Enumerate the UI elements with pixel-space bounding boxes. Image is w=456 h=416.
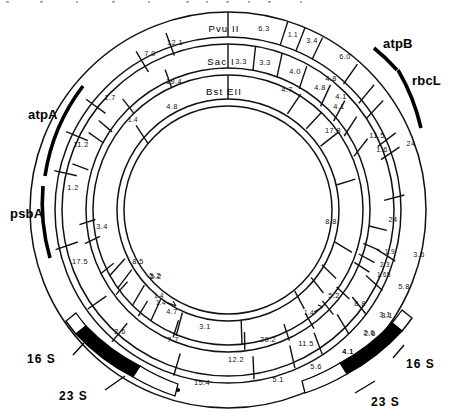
outer-fragment-label: 24 — [406, 139, 415, 148]
circular-restriction-map: Pvu II Sac I Bst EII 6.3 1.1 3.4 6.0 4.8… — [0, 0, 456, 416]
outer-fragment-label: 1.2 — [67, 183, 78, 192]
23S-left-leader — [105, 376, 125, 390]
inner-fragment-label: 1.4 — [154, 292, 164, 299]
inner-fragment-label: 8.8 — [325, 217, 336, 226]
middle-fragment-label: 1.4 — [156, 299, 166, 306]
middle-fragment-label: 4.0 — [289, 67, 300, 76]
inner-fragment-label: 1.4 — [304, 309, 314, 316]
inner-fragment-label: 4.7 — [166, 307, 177, 316]
middle-fragment-label: 3.4 — [96, 222, 107, 231]
psbA-arc-marker — [42, 186, 50, 258]
rrna-operon-left — [66, 313, 180, 396]
middle-fragment-label: 4.8 — [314, 83, 325, 92]
16S-left-label: 16 S — [27, 352, 56, 366]
outer-ring-enzyme-label: Pvu II — [208, 23, 239, 34]
middle-fragment-label: 8.5 — [132, 257, 143, 266]
outer-fragment-label: 11.5 — [369, 131, 384, 140]
rrna-operon-right — [302, 310, 412, 393]
outer-fragment-label: 4.1 — [335, 92, 346, 101]
atpB-label: atpB — [383, 36, 413, 51]
outer-fragment-label: 6.0 — [339, 52, 350, 61]
inner-fragment-label: 4.8 — [166, 102, 177, 111]
16S-right-label: 16 S — [406, 357, 435, 371]
outer-fragment-label: 3.6 — [413, 250, 424, 259]
23S-right-label: 23 S — [371, 395, 400, 409]
23S-left-label: 23 S — [59, 389, 88, 403]
outer-fragment-label: 11.2 — [73, 140, 88, 149]
middle-fragment-label: 2.6 — [114, 327, 125, 336]
middle-fragment-label: 19.4 — [166, 77, 182, 86]
outer-fragment-label: 17.5 — [72, 257, 88, 266]
inner-fragment-label: 20.2 — [260, 335, 276, 344]
middle-fragment-label: 1.4 — [128, 116, 138, 123]
middle-fragment-label: 17.8 — [325, 126, 341, 135]
middle-fragment-label: 2.6 — [363, 328, 374, 337]
middle-fragment-label: 3.1 — [379, 310, 390, 319]
inner-fragment-label: 4.7 — [281, 85, 292, 94]
inner-fragment-label: 5.2 — [149, 271, 160, 280]
outer-fragment-label: 1.7 — [104, 93, 115, 102]
middle-fragment-label: 1.9 — [385, 248, 395, 255]
inner-ring-ticks — [109, 75, 355, 345]
outer-fragment-label: 1.6 — [376, 145, 387, 154]
outer-fragment-label: 5.6 — [310, 362, 321, 371]
atpA-label: atpA — [28, 107, 58, 122]
inner-fragment-label: 5.2 — [328, 291, 339, 300]
outer-fragment-label: 6.3 — [258, 24, 269, 33]
middle-fragment-label: 1.65 — [377, 271, 391, 278]
16S-left-leader — [73, 343, 84, 355]
middle-ring-labels: 3.3 3.3 4.0 4.8 4.1 17.8 24 1.9 2.3 1.65… — [96, 57, 397, 364]
outer-fragment-label: 4.8 — [325, 74, 336, 83]
outer-fragment-label: 5.1 — [272, 375, 283, 384]
middle-fragment-label: 3.3 — [259, 58, 270, 67]
rbcL-label: rbcL — [412, 73, 441, 88]
outer-fragment-label: 1.1 — [288, 31, 298, 38]
atpB-arc-marker — [374, 48, 397, 70]
middle-fragment-label: 12.2 — [228, 355, 244, 364]
middle-fragment-label: 2.3 — [380, 261, 390, 268]
outer-fragment-label: 5.8 — [398, 282, 409, 291]
outer-fragment-label: 7.0 — [144, 49, 155, 58]
psbA-label: psbA — [10, 206, 44, 221]
figure-canvas: Pvu II Sac I Bst EII 6.3 1.1 3.4 6.0 4.8… — [0, 0, 456, 416]
outer-fragment-label: 3.4 — [306, 36, 317, 45]
middle-fragment-label: 8.8 — [354, 299, 365, 308]
16S-right-leader — [393, 345, 404, 358]
middle-fragment-label: 3.3 — [235, 57, 246, 66]
middle-ring-enzyme-label: Sac I — [207, 56, 234, 67]
inner-ring-enzyme-label: Bst EII — [206, 86, 242, 97]
inner-fragment-label: 3.1 — [199, 322, 210, 331]
outer-fragment-label: 12.1 — [167, 38, 183, 47]
23S-right-leader — [355, 381, 375, 393]
scan-artifacts — [6, 1, 302, 3]
middle-fragment-label: 4.1 — [333, 102, 344, 111]
middle-fragment-label: 7.7 — [167, 335, 178, 344]
outer-fragment-label: 15.4 — [194, 378, 210, 387]
middle-fragment-label: 11.5 — [298, 339, 313, 348]
middle-fragment-label: 4.1 — [342, 347, 353, 356]
middle-fragment-label: 24 — [388, 215, 397, 224]
